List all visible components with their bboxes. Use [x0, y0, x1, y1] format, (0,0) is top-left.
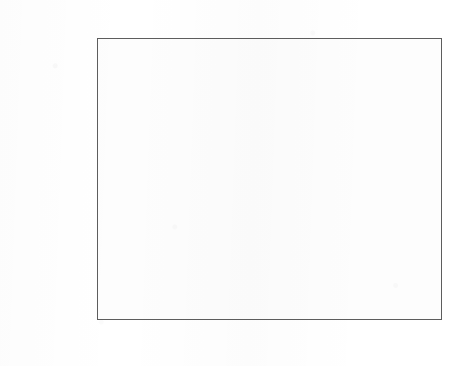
category-axis-labels [0, 0, 460, 366]
